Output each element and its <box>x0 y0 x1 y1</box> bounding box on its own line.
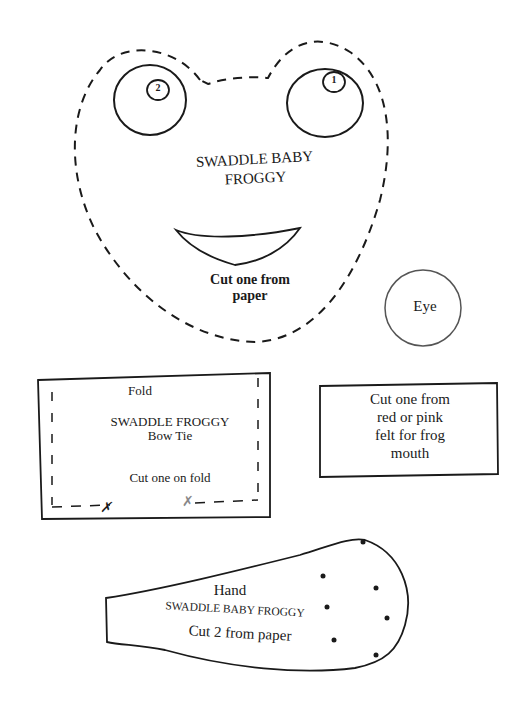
bow-x-mark-left: ✗ <box>100 500 113 515</box>
left-pupil-mark: 2 <box>153 82 163 93</box>
bow-tie-title: SWADDLE FROGGY Bow Tie <box>80 415 260 443</box>
frog-head-cut-line2: paper <box>180 288 320 304</box>
hand-piece-label: Hand <box>190 582 270 599</box>
mouth-note-line3: felt for frog <box>322 426 498 444</box>
frog-head-cut-instruction: Cut one from paper <box>180 272 320 304</box>
mouth-note-line1: Cut one from <box>322 390 498 408</box>
frog-head-cut-line1: Cut one from <box>180 272 320 288</box>
eye-piece-label: Eye <box>395 298 455 315</box>
mouth-note-line4: mouth <box>322 444 498 462</box>
mouth-note-text: Cut one from red or pink felt for frog m… <box>322 390 498 462</box>
left-eye-circle <box>114 65 186 135</box>
bow-tie-title-line1: SWADDLE FROGGY <box>80 415 260 429</box>
bow-tie-fold-label: Fold <box>100 383 180 399</box>
right-eye-circle <box>287 69 363 137</box>
bow-tie-cut-instruction: Cut one on fold <box>90 470 250 486</box>
bow-tie-title-line2: Bow Tie <box>80 429 260 443</box>
mouth-note-line2: red or pink <box>322 408 498 426</box>
pattern-sheet: ✗ ✗ SWADDLE BABY FROGGY Cut one from pap… <box>0 0 532 720</box>
mouth-shape <box>176 228 300 265</box>
bow-x-mark-right: ✗ <box>182 494 194 509</box>
right-pupil-mark: 1 <box>329 74 339 85</box>
hand-dots <box>321 540 390 658</box>
